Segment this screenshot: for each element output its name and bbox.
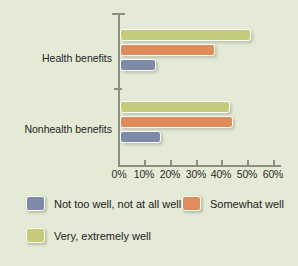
x-axis-tick — [247, 160, 249, 167]
bar-health-not-too-well — [120, 59, 156, 71]
category-label-health: Health benefits — [42, 52, 112, 64]
plot-area: 0% 10% 20% 30% 40% 50% 60% Health benefi… — [0, 0, 298, 180]
legend-label-very-extremely-well: Very, extremely well — [54, 230, 151, 242]
x-tick-label-10: 10% — [131, 168, 157, 180]
legend-swatch-green — [26, 228, 45, 243]
legend-swatch-orange — [182, 196, 201, 211]
x-axis-tick — [221, 160, 223, 167]
x-axis-tick — [196, 160, 198, 167]
x-tick-label-30: 30% — [183, 168, 209, 180]
bar-nonhealth-not-too-well — [120, 131, 161, 143]
bar-nonhealth-somewhat-well — [120, 116, 233, 128]
x-tick-label-60: 60% — [260, 168, 286, 180]
x-axis-tick — [273, 160, 275, 167]
chart-legend: Not too well, not at all well Somewhat w… — [0, 186, 298, 266]
legend-item-not-too-well: Not too well, not at all well — [26, 196, 181, 211]
bar-health-very-extremely-well — [120, 29, 251, 41]
y-axis-tick-separator — [114, 88, 122, 90]
legend-item-somewhat-well: Somewhat well — [182, 196, 284, 211]
legend-label-not-too-well: Not too well, not at all well — [54, 198, 181, 210]
legend-swatch-blue — [26, 196, 45, 211]
legend-row-1: Not too well, not at all well Somewhat w… — [0, 196, 298, 220]
x-axis-tick — [118, 160, 120, 167]
x-tick-label-40: 40% — [208, 168, 234, 180]
bar-health-somewhat-well — [120, 44, 215, 56]
legend-item-very-extremely-well: Very, extremely well — [26, 228, 151, 243]
bar-chart: 0% 10% 20% 30% 40% 50% 60% Health benefi… — [0, 0, 298, 266]
x-tick-label-20: 20% — [157, 168, 183, 180]
legend-label-somewhat-well: Somewhat well — [210, 198, 284, 210]
bar-nonhealth-very-extremely-well — [120, 101, 230, 113]
x-axis-line — [118, 165, 281, 167]
x-axis-tick — [144, 160, 146, 167]
x-tick-label-0: 0% — [106, 168, 132, 180]
category-label-nonhealth: Nonhealth benefits — [24, 123, 112, 135]
x-tick-label-50: 50% — [234, 168, 260, 180]
x-axis-tick — [170, 160, 172, 167]
legend-row-2: Very, extremely well — [0, 228, 298, 252]
